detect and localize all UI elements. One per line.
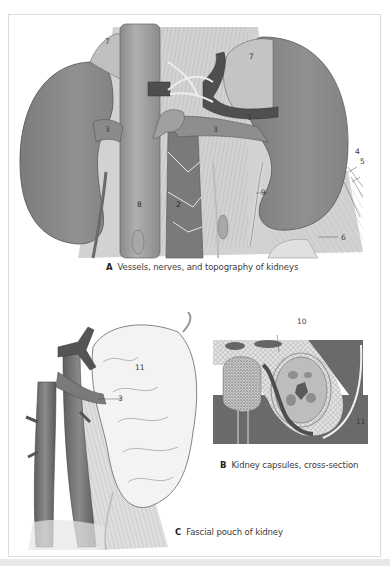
label-9: 9 — [261, 189, 266, 197]
label-7-right: 7 — [249, 53, 254, 61]
panel-c-illustration — [18, 312, 198, 552]
kidneys-topography-illustration — [18, 22, 363, 260]
panel-b-illustration — [213, 330, 368, 444]
caption-c: CFascial pouch of kidney — [175, 527, 283, 537]
caption-b-text: Kidney capsules, cross-section — [231, 460, 358, 470]
label-10: 10 — [297, 318, 307, 326]
label-3-left: 3 — [105, 126, 110, 134]
kidney-capsules-cross-section — [213, 330, 368, 444]
caption-b-letter: B — [220, 460, 226, 470]
label-5: 5 — [360, 158, 365, 166]
label-11-b: 11 — [356, 418, 366, 426]
caption-a: AVessels, nerves, and topography of kidn… — [106, 262, 298, 272]
caption-c-text: Fascial pouch of kidney — [186, 527, 283, 537]
label-6: 6 — [341, 234, 346, 242]
fascial-pouch-illustration — [18, 312, 198, 552]
label-8: 8 — [137, 201, 142, 209]
caption-c-letter: C — [175, 527, 181, 537]
label-7-left: 7 — [105, 38, 110, 46]
label-3-right: 3 — [213, 126, 218, 134]
label-4: 4 — [355, 148, 360, 156]
page-bottom-strip — [0, 559, 390, 566]
label-3-c: 3 — [118, 395, 123, 403]
caption-b: BKidney capsules, cross-section — [220, 460, 358, 470]
label-11-c: 11 — [135, 364, 145, 372]
panel-a-illustration — [18, 22, 363, 260]
caption-a-text: Vessels, nerves, and topography of kidne… — [117, 262, 298, 272]
label-1: 1 — [247, 114, 252, 122]
caption-a-letter: A — [106, 262, 112, 272]
label-2: 2 — [176, 201, 181, 209]
